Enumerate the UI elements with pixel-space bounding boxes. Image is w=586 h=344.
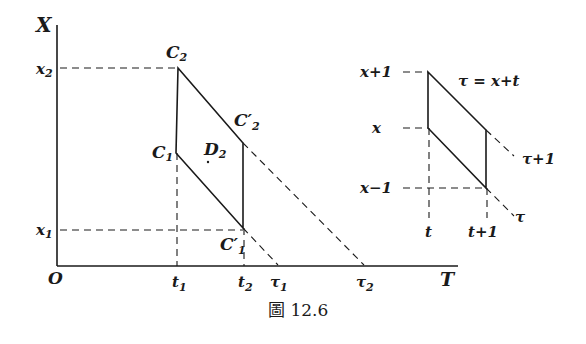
t1-label: t1 bbox=[172, 273, 187, 294]
t2-label: t2 bbox=[238, 273, 253, 294]
x-axis-label: T bbox=[440, 268, 456, 290]
tau1-label: τ1 bbox=[270, 273, 288, 294]
equation-label: τ = x+t bbox=[458, 72, 520, 90]
right-diagram: x+1 x x−1 t t+1 τ = x+t τ+1 τ bbox=[359, 63, 555, 241]
figure-caption: 圖 12.6 bbox=[268, 300, 328, 320]
point-c1-prime-label: C′1 bbox=[220, 234, 246, 257]
tau-plus1-label: τ+1 bbox=[522, 150, 555, 168]
x1-label: x1 bbox=[35, 221, 53, 241]
tau-label: τ bbox=[515, 208, 526, 226]
xminus1-label: x−1 bbox=[359, 179, 392, 197]
tau1-dash bbox=[243, 228, 278, 265]
tau-plus1-dash bbox=[486, 130, 514, 156]
t-label: t bbox=[425, 223, 432, 241]
x2-label: x2 bbox=[35, 60, 53, 80]
figure-12-6: X T O x2 x1 t1 t2 τ1 τ2 bbox=[0, 0, 586, 344]
point-c1-label: C1 bbox=[152, 142, 173, 164]
origin-label: O bbox=[48, 268, 63, 288]
region-d2-label: D2 bbox=[203, 139, 227, 161]
y-axis-label: X bbox=[34, 13, 53, 37]
xplus1-label: x+1 bbox=[359, 63, 392, 81]
point-c2-label: C2 bbox=[166, 42, 188, 64]
region-dot bbox=[207, 161, 209, 163]
tau-dash bbox=[486, 188, 514, 216]
x-label: x bbox=[371, 119, 382, 137]
tau2-label: τ2 bbox=[356, 273, 374, 294]
left-diagram: X T O x2 x1 t1 t2 τ1 τ2 bbox=[34, 13, 458, 294]
tplus1-label: t+1 bbox=[468, 223, 498, 241]
point-c2-prime-label: C′2 bbox=[234, 110, 260, 133]
